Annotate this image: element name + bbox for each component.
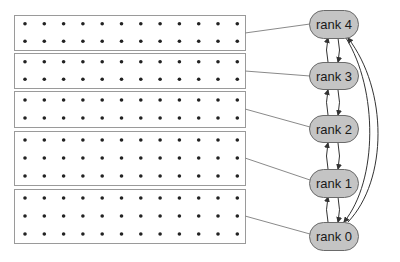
grid-point bbox=[139, 214, 143, 218]
grid-point bbox=[81, 196, 85, 200]
grid-point bbox=[120, 196, 124, 200]
grid-point bbox=[178, 174, 182, 178]
grid-point bbox=[81, 116, 85, 120]
grid-point bbox=[62, 232, 66, 236]
grid-point bbox=[158, 78, 162, 82]
grid-point bbox=[23, 22, 27, 26]
grid-point bbox=[197, 98, 201, 102]
grid-point bbox=[81, 98, 85, 102]
grid-point bbox=[197, 60, 201, 64]
grid-point bbox=[178, 22, 182, 26]
grid-point bbox=[158, 22, 162, 26]
grid-point bbox=[236, 196, 240, 200]
grid-point bbox=[81, 60, 85, 64]
grid-point bbox=[197, 138, 201, 142]
grid-point bbox=[62, 22, 66, 26]
grid-point bbox=[120, 98, 124, 102]
grid-point bbox=[100, 116, 104, 120]
domain-decomposition-diagram: rank 4 rank 3 rank 2 rank 1 rank 0 bbox=[0, 0, 400, 262]
grid-point bbox=[158, 232, 162, 236]
rank-label: rank 2 bbox=[316, 122, 352, 137]
grid-point bbox=[62, 60, 66, 64]
grid-point bbox=[120, 156, 124, 160]
grid-point bbox=[236, 60, 240, 64]
rank-label: rank 4 bbox=[316, 17, 352, 32]
grid-point bbox=[178, 232, 182, 236]
grid-point bbox=[43, 232, 47, 236]
grid-point bbox=[197, 214, 201, 218]
grid-point bbox=[158, 174, 162, 178]
grid-point bbox=[43, 60, 47, 64]
grid-point bbox=[197, 116, 201, 120]
grid-point bbox=[216, 138, 220, 142]
grid-point bbox=[139, 196, 143, 200]
grid-point bbox=[158, 196, 162, 200]
grid-point bbox=[216, 60, 220, 64]
grid-point bbox=[62, 214, 66, 218]
grid-point bbox=[139, 232, 143, 236]
grid-point bbox=[43, 40, 47, 44]
grid-point bbox=[43, 196, 47, 200]
grid-point bbox=[81, 22, 85, 26]
grid-point bbox=[216, 196, 220, 200]
grid-point bbox=[178, 214, 182, 218]
grid-point bbox=[197, 232, 201, 236]
grid-point bbox=[236, 40, 240, 44]
grid-point bbox=[236, 214, 240, 218]
grid-point bbox=[236, 174, 240, 178]
grid-point bbox=[139, 138, 143, 142]
grid-point bbox=[62, 116, 66, 120]
rank-node-0: rank 0 bbox=[310, 223, 359, 251]
grid-point bbox=[139, 174, 143, 178]
grid-point bbox=[100, 214, 104, 218]
grid-point bbox=[23, 232, 27, 236]
grid-point bbox=[139, 116, 143, 120]
grid-point bbox=[100, 22, 104, 26]
rank-label: rank 3 bbox=[316, 69, 352, 84]
rank-label: rank 0 bbox=[316, 229, 352, 244]
grid-point bbox=[43, 214, 47, 218]
grid-point bbox=[139, 78, 143, 82]
grid-point bbox=[178, 98, 182, 102]
rank-label: rank 1 bbox=[316, 176, 352, 191]
grid-point bbox=[216, 98, 220, 102]
grid-point bbox=[197, 40, 201, 44]
grid-point bbox=[178, 78, 182, 82]
grid-point bbox=[23, 60, 27, 64]
grid-point bbox=[100, 156, 104, 160]
grid-point bbox=[139, 156, 143, 160]
grid-point bbox=[178, 116, 182, 120]
rank-node-2: rank 2 bbox=[310, 116, 359, 143]
grid-point bbox=[158, 40, 162, 44]
grid-point bbox=[120, 60, 124, 64]
grid-point bbox=[62, 196, 66, 200]
grid-point bbox=[139, 98, 143, 102]
grid-point bbox=[43, 174, 47, 178]
grid-point bbox=[178, 196, 182, 200]
block-node-links bbox=[245, 24, 310, 234]
grid-point bbox=[43, 116, 47, 120]
grid-point bbox=[62, 174, 66, 178]
grid-point bbox=[216, 78, 220, 82]
grid-block-rank-2 bbox=[15, 92, 246, 128]
grid-point bbox=[43, 22, 47, 26]
grid-point bbox=[120, 116, 124, 120]
grid-point bbox=[216, 174, 220, 178]
grid-point bbox=[62, 78, 66, 82]
grid-point bbox=[236, 98, 240, 102]
grid-point bbox=[23, 40, 27, 44]
grid-point bbox=[100, 174, 104, 178]
grid-point bbox=[236, 232, 240, 236]
grid-point bbox=[23, 196, 27, 200]
grid-point bbox=[23, 174, 27, 178]
grid-point bbox=[43, 138, 47, 142]
grid-point bbox=[23, 78, 27, 82]
grid-block-rank-3 bbox=[15, 54, 246, 89]
grid-point bbox=[23, 116, 27, 120]
grid-point bbox=[120, 40, 124, 44]
grid-point bbox=[216, 116, 220, 120]
grid-point bbox=[81, 174, 85, 178]
grid-point bbox=[81, 78, 85, 82]
grid-point bbox=[158, 214, 162, 218]
grid-point bbox=[158, 98, 162, 102]
